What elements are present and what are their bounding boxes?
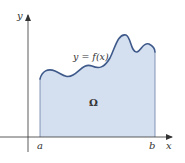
bound-b-label: b bbox=[149, 140, 155, 151]
area-diagram: y x a b y = f(x) Ω bbox=[0, 0, 185, 163]
x-axis-label: x bbox=[166, 140, 172, 151]
curve-label: y = f(x) bbox=[72, 51, 109, 62]
region-label: Ω bbox=[89, 97, 98, 108]
y-axis-label: y bbox=[16, 10, 23, 21]
bound-a-label: a bbox=[37, 140, 43, 151]
